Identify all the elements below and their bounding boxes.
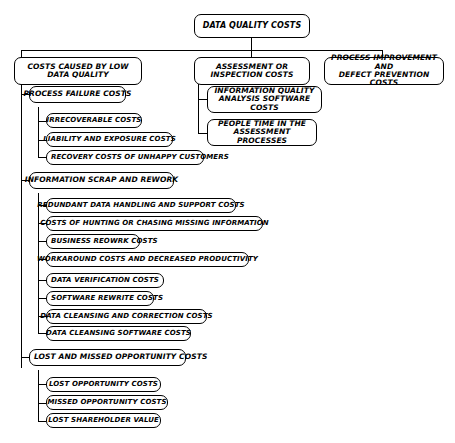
- node-lost-opportunity-costs[interactable]: LOST OPPORTUNITY COSTS: [46, 377, 161, 392]
- connector-assessment-spine: [198, 81, 199, 133]
- connector-as-item-1: [198, 99, 207, 100]
- connector-to-lost-missed: [21, 357, 29, 358]
- node-recovery-costs-of-unhappy-customers[interactable]: RECOVERY COSTS OF UNHAPPY CUSTOMERS: [46, 150, 204, 165]
- connector-isr-item-3: [38, 241, 46, 242]
- node-data-cleansing-software-costs[interactable]: DATA CLEANSING SOFTWARE COSTS: [46, 326, 191, 341]
- connector-root-bus: [21, 50, 382, 51]
- node-assessment-or-inspection-costs[interactable]: ASSESSMENT OR INSPECTION COSTS: [194, 57, 310, 85]
- node-information-quality-analysis-software-costs[interactable]: INFORMATION QUALITY ANALYSIS SOFTWARE CO…: [207, 86, 322, 113]
- connector-process-failure-spine: [38, 107, 39, 157]
- node-people-time-in-the-assessment-processes[interactable]: PEOPLE TIME IN THE ASSESSMENT PROCESSES: [207, 119, 317, 146]
- connector-pf-item-1: [38, 121, 46, 122]
- node-process-failure-costs[interactable]: PROCESS FAILURE COSTS: [29, 86, 126, 103]
- node-process-improvement-and-defect-prevention-costs[interactable]: PROCESS IMPROVEMENT AND DEFECT PREVENTIO…: [324, 57, 444, 85]
- connector-lm-item-3: [38, 421, 46, 422]
- node-process-improvement-line1: PROCESS IMPROVEMENT AND: [331, 53, 437, 70]
- connector-low-quality-spine: [21, 81, 22, 368]
- connector-as-item-2: [198, 133, 207, 134]
- connector-pf-item-3: [38, 157, 46, 158]
- node-irrecoverable-costs[interactable]: IRRECOVERABLE COSTS: [46, 113, 142, 128]
- node-people-time-line2: ASSESSMENT PROCESSES: [234, 127, 291, 144]
- node-process-improvement-line2: DEFECT PREVENTION COSTS: [339, 70, 430, 87]
- node-information-scrap-and-rework[interactable]: INFORMATION SCRAP AND REWORK: [29, 172, 174, 189]
- connector-lm-item-1: [38, 384, 46, 385]
- connector-isr-item-8: [38, 333, 46, 334]
- node-iq-analysis-line2: ANALYSIS SOFTWARE COSTS: [219, 94, 311, 111]
- connector-root-stem: [251, 38, 252, 50]
- node-lost-and-missed-opportunity-costs[interactable]: LOST AND MISSED OPPORTUNITY COSTS: [29, 349, 186, 366]
- node-lost-shareholder-value[interactable]: LOST SHAREHOLDER VALUE: [46, 413, 161, 428]
- node-data-verification-costs[interactable]: DATA VERIFICATION COSTS: [46, 273, 164, 288]
- node-workaround-costs-and-decreased-productivity[interactable]: WORKAROUND COSTS AND DECREASED PRODUCTIV…: [46, 252, 249, 267]
- connector-lm-item-2: [38, 403, 46, 404]
- connector-isr-item-6: [38, 298, 46, 299]
- node-software-rewrite-costs[interactable]: SOFTWARE REWRITE COSTS: [46, 291, 154, 306]
- node-business-reowrk-costs[interactable]: BUSINESS REOWRK COSTS: [46, 234, 140, 249]
- connector-isr-item-5: [38, 280, 46, 281]
- diagram-canvas: DATA QUALITY COSTS COSTS CAUSED BY LOW D…: [0, 0, 455, 443]
- node-low-quality-line2: DATA QUALITY: [47, 70, 109, 79]
- node-data-cleansing-and-correction-costs[interactable]: DATA CLEANSING AND CORRECTION COSTS: [46, 309, 207, 324]
- node-missed-opportunity-costs[interactable]: MISSED OPPORTUNITY COSTS: [46, 395, 168, 410]
- connector-lost-missed-spine: [38, 370, 39, 421]
- node-redundant-data-handling-and-support-costs[interactable]: REDUNDANT DATA HANDLING AND SUPPORT COST…: [46, 198, 236, 213]
- node-data-quality-costs[interactable]: DATA QUALITY COSTS: [194, 14, 310, 38]
- node-costs-caused-by-low-data-quality[interactable]: COSTS CAUSED BY LOW DATA QUALITY: [14, 57, 142, 85]
- node-liability-and-exposure-costs[interactable]: LIABILITY AND EXPOSURE COSTS: [46, 132, 173, 147]
- node-assessment-line2: INSPECTION COSTS: [210, 70, 293, 79]
- node-costs-of-hunting-or-chasing-missing-information[interactable]: COSTS OF HUNTING OR CHASING MISSING INFO…: [46, 216, 263, 231]
